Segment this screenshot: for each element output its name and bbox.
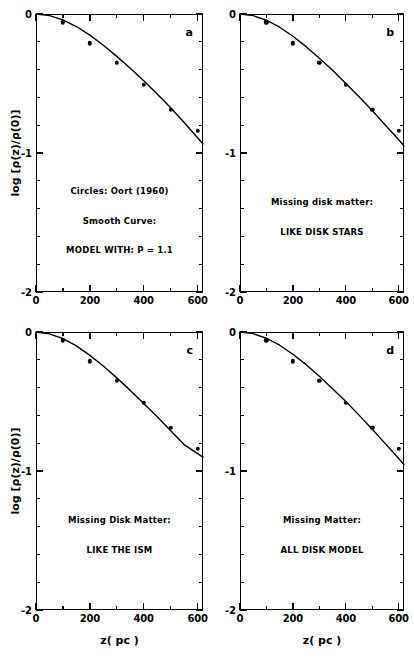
- panel-annotation: MODEL WITH: P = 1.1: [66, 245, 173, 255]
- x-tick-label: 0: [33, 295, 40, 306]
- panel-annotation: Smooth Curve:: [83, 216, 157, 226]
- x-tick-label: 200: [80, 613, 100, 624]
- panel-annotation: LIKE THE ISM: [87, 545, 153, 555]
- panel-letter-c: c: [186, 344, 193, 357]
- panel-b: 02004006000-1-2bMissing disk matter:LIKE…: [240, 14, 404, 292]
- y-tick-label: -2: [20, 605, 32, 616]
- x-axis-title-left: z( pc ): [100, 634, 139, 647]
- panel-annotation: Circles: Oort (1960): [70, 186, 168, 196]
- y-tick-label: -1: [20, 148, 32, 159]
- x-tick-label: 200: [283, 295, 303, 306]
- x-tick-label: 400: [134, 295, 154, 306]
- panel-c: 02004006000-1-2cMissing Disk Matter:LIKE…: [36, 332, 203, 610]
- x-tick-label: 600: [187, 613, 207, 624]
- y-axis-title-bottom: log [ρ(z)/ρ(0)]: [9, 427, 22, 514]
- figure-canvas: 02004006000-1-2aCircles: Oort (1960)Smoo…: [0, 0, 414, 659]
- y-tick-label: -2: [20, 287, 32, 298]
- x-tick-label: 600: [389, 613, 409, 624]
- y-tick-label: 0: [20, 327, 32, 338]
- x-tick-label: 400: [336, 613, 356, 624]
- panel-d: 02004006000-1-2dMissing Matter:ALL DISK …: [240, 332, 404, 610]
- x-axis-title-right: z( pc ): [303, 634, 342, 647]
- y-tick-label: -2: [224, 605, 236, 616]
- model-curve-c: [36, 332, 203, 610]
- y-tick-label: -1: [20, 466, 32, 477]
- x-tick-label: 0: [237, 295, 244, 306]
- panel-annotation: Missing disk matter:: [271, 197, 373, 207]
- x-tick-label: 600: [187, 295, 207, 306]
- x-tick-label: 200: [283, 613, 303, 624]
- panel-letter-d: d: [386, 344, 394, 357]
- panel-annotation: LIKE DISK STARS: [280, 227, 363, 237]
- x-tick-label: 400: [134, 613, 154, 624]
- x-tick-label: 200: [80, 295, 100, 306]
- panel-letter-a: a: [186, 26, 193, 39]
- model-curve-b: [240, 14, 404, 292]
- x-tick-label: 400: [336, 295, 356, 306]
- y-tick-label: 0: [20, 9, 32, 20]
- x-tick-label: 0: [33, 613, 40, 624]
- y-tick-label: -1: [224, 466, 236, 477]
- y-tick-label: 0: [224, 9, 236, 20]
- panel-annotation: Missing Disk Matter:: [68, 515, 171, 525]
- x-tick-label: 0: [237, 613, 244, 624]
- y-tick-label: 0: [224, 327, 236, 338]
- x-tick-label: 600: [389, 295, 409, 306]
- model-curve-d: [240, 332, 404, 610]
- panel-letter-b: b: [386, 26, 394, 39]
- panel-a: 02004006000-1-2aCircles: Oort (1960)Smoo…: [36, 14, 203, 292]
- panel-annotation: Missing Matter:: [283, 515, 361, 525]
- panel-annotation: ALL DISK MODEL: [280, 545, 363, 555]
- y-tick-label: -1: [224, 148, 236, 159]
- y-tick-label: -2: [224, 287, 236, 298]
- y-axis-title-top: log [ρ(z)/ρ(0)]: [9, 109, 22, 196]
